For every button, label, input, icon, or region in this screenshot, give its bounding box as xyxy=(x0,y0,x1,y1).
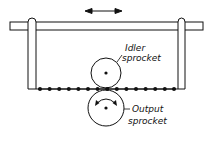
double-arrow-icon xyxy=(85,9,122,14)
output-label-line1: Output xyxy=(132,104,163,114)
chain xyxy=(38,87,176,91)
output-sprocket xyxy=(88,90,124,126)
output-label-line2: sprocket xyxy=(128,116,167,126)
idler-label-line2: sprocket xyxy=(122,53,161,63)
top-rail xyxy=(10,22,203,30)
left-post xyxy=(28,18,36,89)
chain-drive-diagram xyxy=(0,0,205,148)
idler-label-line1: Idler xyxy=(125,43,145,53)
idler-sprocket xyxy=(91,58,121,88)
right-post xyxy=(178,18,185,89)
